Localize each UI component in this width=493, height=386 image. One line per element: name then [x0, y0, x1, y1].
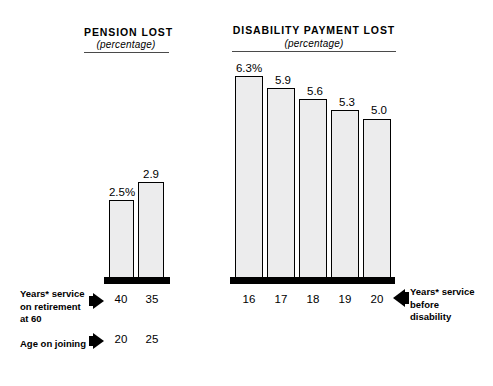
right-bar-2 [299, 99, 327, 278]
left-note-service-line2: on retirement [20, 301, 84, 314]
right-bar-4 [363, 119, 391, 278]
left-note-age: Age on joining [20, 338, 86, 351]
right-bar-0 [235, 76, 263, 278]
right-panel-title-rule [232, 51, 396, 52]
left-note-service-line1: Years* service [20, 288, 84, 301]
right-bar-3 [331, 110, 359, 278]
left-panel-title-rule [84, 52, 169, 53]
right-panel-title: DISABILITY PAYMENT LOST [224, 24, 404, 36]
right-bar-value-4: 5.0 [353, 104, 405, 116]
left-note-service: Years* service on retirement at 60 [20, 288, 84, 326]
left-baseline [104, 277, 170, 284]
chart-figure: PENSION LOST (percentage) 2.5% 2.9 Years… [0, 0, 493, 386]
left-bar-value-1: 2.9 [126, 168, 176, 180]
right-note-service: Years* service before disability [410, 286, 474, 324]
service-arrow-right-stub-icon [89, 296, 94, 306]
right-note-service-line1: Years* service [410, 286, 474, 299]
left-note-age-line1: Age on joining [20, 338, 86, 351]
left-panel-subtitle: (percentage) [84, 39, 168, 50]
left-age-tick-1: 25 [130, 333, 174, 345]
right-panel-subtitle: (percentage) [224, 38, 404, 49]
right-bar-1 [267, 88, 295, 278]
right-note-service-line2: before [410, 299, 474, 312]
left-note-service-line3: at 60 [20, 313, 84, 326]
disability-arrow-left-stub-icon [404, 292, 409, 304]
age-arrow-right-stub-icon [89, 336, 94, 346]
right-bar-value-0: 6.3% [222, 62, 276, 74]
left-bar-0 [109, 200, 134, 278]
right-baseline [230, 277, 395, 284]
right-note-service-line3: disability [410, 311, 474, 324]
left-panel-title: PENSION LOST [84, 26, 168, 38]
left-bar-1 [138, 182, 164, 278]
left-tick-1: 35 [130, 293, 174, 305]
